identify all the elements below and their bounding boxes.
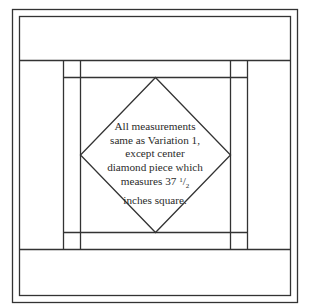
caption-line-6: inches square. — [95, 194, 215, 208]
diamond-caption: All measurements same as Variation 1, ex… — [95, 120, 215, 208]
fraction-denominator: 2 — [186, 183, 190, 191]
caption-line-1: All measurements — [95, 120, 215, 134]
caption-line-3: except center — [95, 147, 215, 161]
caption-measure-text: measures 37 — [121, 175, 177, 187]
caption-line-5: measures 37 1/2 — [95, 174, 215, 194]
caption-line-2: same as Variation 1, — [95, 134, 215, 148]
caption-line-4: diamond piece which — [95, 161, 215, 175]
